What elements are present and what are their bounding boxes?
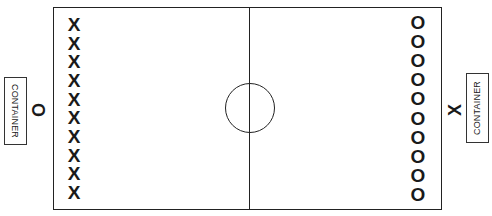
player-o-marker: O — [411, 15, 426, 31]
right-team-marker: X — [446, 104, 464, 116]
player-x-marker: X — [68, 54, 81, 70]
player-o-marker: O — [411, 91, 426, 107]
left-container-label: CONTAINER — [11, 84, 21, 138]
right-container-box: CONTAINER — [466, 73, 489, 143]
player-o-marker: O — [411, 130, 426, 146]
player-x-marker: X — [68, 129, 81, 145]
left-container-box: CONTAINER — [4, 77, 27, 145]
right-player-column: O O O O O O O O O O — [410, 15, 426, 203]
player-x-marker: X — [68, 17, 81, 33]
left-team-marker: O — [29, 103, 47, 117]
player-x-marker: X — [68, 73, 81, 89]
player-o-marker: O — [411, 187, 426, 203]
player-x-marker: X — [68, 92, 81, 108]
player-x-marker: X — [68, 148, 81, 164]
right-container-label: CONTAINER — [473, 81, 483, 135]
center-circle — [225, 83, 275, 133]
player-o-marker: O — [411, 53, 426, 69]
player-o-marker: O — [411, 34, 426, 50]
player-x-marker: X — [68, 166, 81, 182]
player-o-marker: O — [411, 149, 426, 165]
player-o-marker: O — [411, 72, 426, 88]
player-x-marker: X — [68, 110, 81, 126]
player-o-marker: O — [411, 111, 426, 127]
player-x-marker: X — [68, 185, 81, 201]
playing-field — [53, 7, 442, 210]
player-o-marker: O — [411, 168, 426, 184]
player-x-marker: X — [68, 36, 81, 52]
left-player-column: X X X X X X X X X X — [66, 17, 82, 201]
